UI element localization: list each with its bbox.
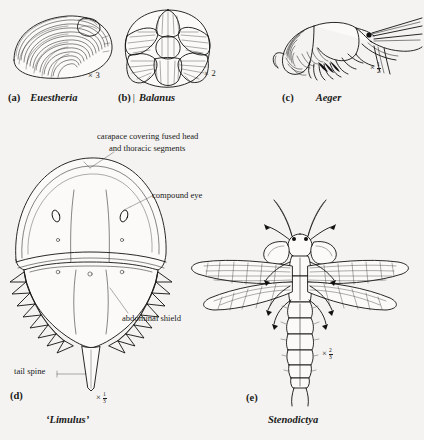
caption-b-separator: |	[133, 92, 135, 103]
magnification-e: ×23	[322, 348, 333, 360]
leader-line-tail-spine	[56, 368, 90, 380]
fossil-shrimp-icon	[252, 10, 424, 90]
mag-c-times: ×	[370, 62, 375, 72]
caption-c-letter: (c)	[282, 92, 294, 103]
caption-e-name-wrap: Stenodictya	[268, 414, 318, 425]
caption-b: (b)|Balanus	[118, 92, 175, 103]
magnification-d: ×13	[96, 392, 107, 404]
caption-a-letter: (a)	[8, 92, 20, 103]
caption-e-letter-wrap: (e)	[246, 392, 258, 403]
mag-d-times: ×	[96, 392, 101, 402]
magnification-c: ×12	[370, 62, 381, 74]
leader-line-abdominal-shield	[106, 286, 132, 316]
magnification-a: × 3	[88, 70, 100, 80]
clam-shrimp-carapace-icon	[8, 8, 120, 88]
mag-d-fraction: 13	[103, 392, 107, 404]
palaeodictyopteran-insect-icon	[188, 196, 420, 392]
leader-line-compound-eye	[118, 192, 156, 214]
panel-c-aeger: ×12	[252, 10, 424, 90]
leader-carapace-line1: carapace covering fused head	[97, 131, 198, 143]
caption-d-name-wrap: ‘Limulus’	[46, 414, 89, 425]
caption-a: (a)Euestheria	[8, 92, 78, 103]
leader-line-carapace	[70, 150, 116, 176]
caption-c-name: Aeger	[316, 92, 342, 103]
caption-d-name: ‘Limulus’	[46, 414, 89, 425]
caption-c: (c)Aeger	[282, 92, 341, 103]
mag-e-fraction: 23	[329, 348, 333, 360]
caption-d-letter: (d)	[10, 390, 23, 401]
leader-tail-spine-line1: tail spine	[14, 366, 45, 378]
caption-b-letter: (b)	[118, 92, 131, 103]
magnification-b: × 2	[204, 68, 216, 78]
panel-b-balanus: × 2	[118, 6, 218, 92]
caption-d-letter-wrap: (d)	[10, 390, 23, 401]
caption-e-name: Stenodictya	[268, 414, 318, 425]
leader-carapace-line2: and thoracic segments	[109, 143, 198, 155]
mag-e-times: ×	[322, 348, 327, 358]
horseshoe-crab-icon	[2, 142, 182, 392]
panel-d-limulus	[2, 142, 182, 392]
insect-head	[288, 234, 312, 258]
acorn-barnacle-icon	[118, 6, 218, 92]
panel-e-stenodictya	[188, 196, 420, 392]
figure-plate: × 3 (a)Euestheria	[0, 0, 424, 440]
caption-a-name: Euestheria	[30, 92, 77, 103]
leader-label-tail-spine: tail spine	[14, 366, 45, 378]
panel-a-euestheria: × 3	[8, 8, 120, 88]
caption-e-letter: (e)	[246, 392, 258, 403]
caption-b-name: Balanus	[139, 92, 175, 103]
mag-c-fraction: 12	[377, 62, 381, 74]
